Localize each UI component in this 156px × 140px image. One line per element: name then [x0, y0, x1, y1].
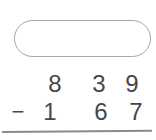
minuend-digit-ones: 9: [125, 72, 138, 96]
subtraction-worksheet: 8 3 9 − 1 6 7: [0, 0, 156, 140]
subtrahend-digit-ones: 7: [129, 100, 142, 124]
equals-line: [2, 130, 152, 133]
minuend-digit-tens: 3: [92, 72, 105, 96]
answer-input-pill[interactable]: [14, 20, 151, 57]
minuend-digit-hundreds: 8: [48, 72, 61, 96]
minus-operator: −: [12, 100, 25, 124]
subtrahend-digit-hundreds: 1: [43, 100, 56, 124]
subtrahend-digit-tens: 6: [94, 100, 107, 124]
